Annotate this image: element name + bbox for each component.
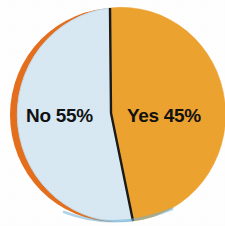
pie-label-no: No 55% (26, 106, 93, 125)
pie-label-yes: Yes 45% (127, 106, 201, 125)
pie-chart-figure: No 55% Yes 45% (0, 0, 225, 226)
